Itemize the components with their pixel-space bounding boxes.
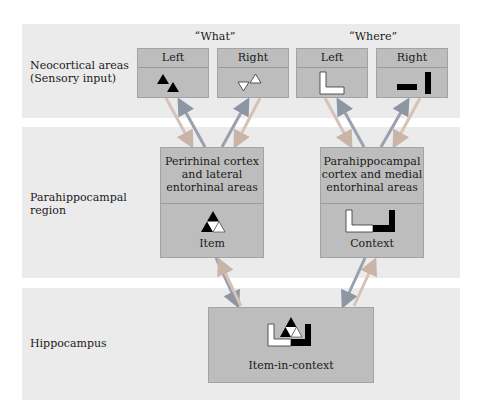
white-l-shape-icon (297, 67, 369, 99)
label-line: (Sensory input) (30, 72, 129, 85)
box-caption: Context (321, 237, 423, 250)
band-label-hippocampus: Hippocampus (30, 337, 107, 350)
context-box: Parahippocampal cortex and medial entorh… (320, 147, 424, 258)
header-line: entorhinal areas (161, 181, 263, 194)
label-line: Neocortical areas (30, 59, 129, 72)
sensory-box-what-left: Left (137, 48, 209, 98)
box-header: Left (297, 49, 367, 68)
band-label-parahippocampal: Parahippocampal region (30, 191, 127, 217)
box-header: Left (138, 49, 208, 68)
header-line: Parahippocampal (321, 155, 423, 168)
item-in-context-icon (209, 312, 375, 352)
header-line: entorhinal areas (321, 181, 423, 194)
header-line: and lateral (161, 168, 263, 181)
sensory-box-what-right: Right (217, 48, 289, 98)
box-header: Right (218, 49, 288, 68)
item-box: Perirhinal cortex and lateral entorhinal… (160, 147, 264, 258)
band-label-neocortical: Neocortical areas (Sensory input) (30, 59, 129, 85)
header-line: cortex and medial (321, 168, 423, 181)
group-title-where: “Where” (333, 30, 413, 43)
header-line: Perirhinal cortex (161, 155, 263, 168)
label-line: Parahippocampal (30, 191, 127, 204)
label-line: Hippocampus (30, 337, 107, 350)
group-title-what: “What” (175, 30, 255, 43)
label-line: region (30, 204, 127, 217)
box-caption: Item (161, 237, 263, 250)
box-header: Right (377, 49, 447, 68)
sensory-box-where-left: Left (296, 48, 368, 98)
black-bars-icon (377, 67, 449, 99)
two-black-triangles-icon (138, 67, 210, 99)
box-header: Perirhinal cortex and lateral entorhinal… (161, 148, 263, 204)
two-white-triangles-icon (218, 67, 290, 99)
sensory-box-where-right: Right (376, 48, 448, 98)
box-header: Parahippocampal cortex and medial entorh… (321, 148, 423, 204)
combined-context-shape-icon (321, 208, 425, 240)
combined-triangle-icon (161, 208, 265, 240)
item-in-context-box: Item-in-context (208, 307, 374, 383)
box-caption: Item-in-context (209, 359, 373, 372)
